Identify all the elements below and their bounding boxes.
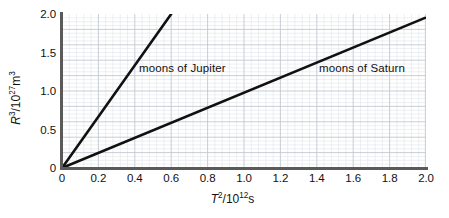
y-axis-line [60,12,63,170]
y-tick-label-3: 1.5 [40,47,56,59]
x-axis-title-divisor: /10 [223,192,240,206]
y-axis-title-unit: m [9,76,23,86]
x-axis-line [60,167,428,170]
x-tick-label-6: 1.2 [273,172,289,184]
plot-area [62,14,426,168]
series-label-jupiter: moons of Jupiter [139,62,226,74]
x-tick-label-0: 0 [59,172,65,184]
y-axis-title-exponent: 27 [8,86,17,95]
y-axis-title-variable: R [9,116,23,125]
kepler-third-law-chart: 0 0.2 0.4 0.6 0.8 1.0 1.2 1.4 1.6 1.8 2.… [0,0,449,218]
x-tick-label-2: 0.4 [127,172,143,184]
y-tick-label-0: 0 [50,162,56,174]
y-tick-label-1: 0.5 [40,124,56,136]
data-series-lines [62,14,426,168]
x-tick-label-1: 0.2 [91,172,107,184]
y-tick-label-2: 1.0 [40,85,56,97]
x-tick-label-3: 0.6 [163,172,179,184]
y-axis-title-unit-exponent: 3 [8,71,17,76]
y-axis-title-variable-exponent: 3 [8,112,17,117]
x-tick-label-5: 1.0 [236,172,252,184]
y-axis-title: R3/1027m3 [9,38,23,158]
x-axis-title-exponent: 12 [239,191,248,200]
x-tick-label-8: 1.6 [345,172,361,184]
series-label-saturn: moons of Saturn [319,62,405,74]
x-axis-title-unit: s [248,192,254,206]
x-tick-label-9: 1.8 [382,172,398,184]
x-axis-title: T2/1012s [0,192,449,206]
x-tick-label-4: 0.8 [200,172,216,184]
x-axis-title-variable: T [211,192,218,206]
y-axis-title-divisor: /10 [9,95,23,112]
x-tick-label-10: 2.0 [418,172,434,184]
x-tick-label-7: 1.4 [309,172,325,184]
y-tick-label-4: 2.0 [40,8,56,20]
